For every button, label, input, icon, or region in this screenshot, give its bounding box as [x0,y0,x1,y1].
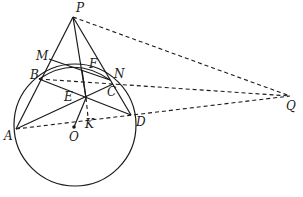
label-a: A [3,129,13,143]
label-f: F [88,57,98,71]
label-b: B [29,68,39,82]
dashed-segment-ek [86,98,88,117]
label-e: E [63,90,73,104]
dashed-segment-aq [16,96,290,129]
segment-ef [82,70,86,98]
label-n: N [113,67,125,81]
label-q: Q [286,99,296,113]
segment-pa [16,17,73,129]
label-m: M [35,49,49,63]
center-point-o [72,125,76,129]
dashed-segment-pq [73,17,290,96]
geometry-diagram: PMBFNCEKADOQ [0,0,303,197]
segment-pd [73,17,131,115]
label-k: K [84,117,95,131]
label-o: O [69,130,79,144]
label-d: D [135,115,146,129]
label-p: P [75,1,85,15]
label-c: C [107,85,116,99]
